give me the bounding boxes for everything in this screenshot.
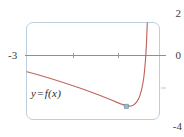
function-label-equals: = [36,87,45,99]
function-label-fx: f(x) [45,87,61,99]
x-axis-label-left: -3 [8,50,17,61]
y-axis-label-top: 2 [176,8,182,19]
minimum-point-marker [124,104,128,108]
graph-figure: -3 2 0 -4 y=f(x) [0,0,184,137]
graph-canvas [0,0,184,137]
function-equation-label: y=f(x) [31,87,61,99]
y-axis-label-zero: 0 [176,50,182,61]
y-axis-label-bottom: -4 [173,121,182,132]
